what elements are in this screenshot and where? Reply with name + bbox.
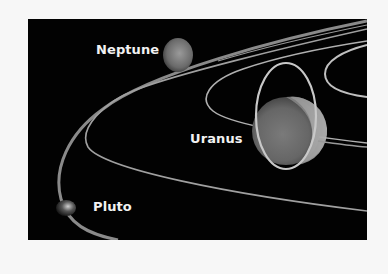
neptune-label: Neptune <box>96 42 159 57</box>
solar-system-illustration: Neptune Uranus Pluto <box>28 19 367 240</box>
orbits-graphic <box>28 19 367 240</box>
pluto-planet <box>56 200 76 216</box>
uranus-label: Uranus <box>190 131 243 146</box>
pluto-label: Pluto <box>93 199 132 214</box>
neptune-planet <box>163 38 193 72</box>
